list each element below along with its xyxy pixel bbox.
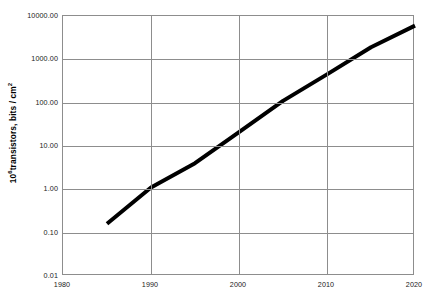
y-axis-tick-label: 10000.00 <box>0 11 58 20</box>
x-axis-tick-label: 1990 <box>142 280 158 289</box>
y-axis-tick-labels: 0.010.101.0010.00100.001000.0010000.00 <box>0 0 58 300</box>
chart-figure: 106transistors, bits / cm2 0.010.101.001… <box>0 0 435 300</box>
gridline-horizontal <box>63 189 413 190</box>
y-axis-tick-label: 10.00 <box>0 141 58 150</box>
plot-area <box>62 15 414 275</box>
y-axis-tick-label: 0.01 <box>0 271 58 280</box>
x-axis-tick-label: 2000 <box>230 280 246 289</box>
gridline-vertical <box>239 16 240 274</box>
data-line <box>107 26 415 224</box>
gridline-horizontal <box>63 146 413 147</box>
x-axis-tick-labels: 19801990200020102020 <box>0 280 435 296</box>
gridline-horizontal <box>63 59 413 60</box>
y-axis-tick-label: 100.00 <box>0 97 58 106</box>
y-axis-tick-label: 0.10 <box>0 227 58 236</box>
gridline-vertical <box>327 16 328 274</box>
gridline-horizontal <box>63 233 413 234</box>
gridline-horizontal <box>63 103 413 104</box>
x-axis-tick-label: 2020 <box>406 280 422 289</box>
y-axis-tick-label: 1000.00 <box>0 54 58 63</box>
gridline-vertical <box>151 16 152 274</box>
x-axis-tick-label: 1980 <box>54 280 70 289</box>
x-axis-tick-label: 2010 <box>318 280 334 289</box>
y-axis-tick-label: 1.00 <box>0 184 58 193</box>
